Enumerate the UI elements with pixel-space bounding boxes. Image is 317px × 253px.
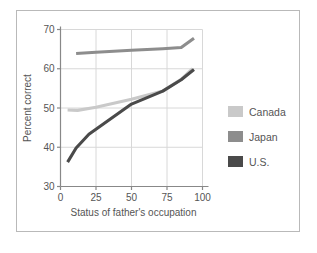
y-tick-label: 30 xyxy=(43,181,55,192)
legend-label-japan: Japan xyxy=(249,131,278,143)
y-axis-title: Percent correct xyxy=(22,74,33,142)
series-line-japan xyxy=(76,38,194,53)
chart-figure: 30405060700255075100Status of father's o… xyxy=(0,0,317,253)
x-tick-label: 50 xyxy=(126,192,138,203)
legend-label-us: U.S. xyxy=(249,156,269,168)
y-tick-label: 60 xyxy=(43,63,55,74)
y-tick-label: 40 xyxy=(43,142,55,153)
x-tick-label: 0 xyxy=(58,192,64,203)
x-tick-label: 100 xyxy=(194,192,211,203)
x-tick-label: 25 xyxy=(90,192,102,203)
legend-swatch-japan xyxy=(228,131,243,142)
x-axis-title: Status of father's occupation xyxy=(71,207,197,218)
y-tick-label: 50 xyxy=(43,103,55,114)
legend-swatch-canada xyxy=(228,106,243,117)
series-line-us xyxy=(68,70,194,163)
x-tick-label: 75 xyxy=(161,192,173,203)
line-chart: 30405060700255075100Status of father's o… xyxy=(0,0,317,253)
y-tick-label: 70 xyxy=(43,24,55,35)
legend-swatch-us xyxy=(228,156,243,167)
legend-label-canada: Canada xyxy=(249,106,286,118)
